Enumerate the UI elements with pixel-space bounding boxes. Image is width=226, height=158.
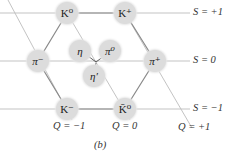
node-K-plus: K⁺ <box>114 2 136 24</box>
label-s-0: S = 0 <box>193 54 216 65</box>
node-pi-plus: π⁺ <box>144 50 166 72</box>
label-q-0: Q = 0 <box>112 120 137 131</box>
diagram-lines <box>0 0 226 158</box>
label-q-plus1: Q = +1 <box>178 121 210 132</box>
node-eta: η <box>69 40 91 62</box>
label-s-plus1: S = +1 <box>193 6 223 17</box>
node-K-minus: K⁻ <box>56 98 78 120</box>
caption: (b) <box>94 139 106 150</box>
node-pi-minus: π⁻ <box>27 50 49 72</box>
node-K0-bar: K̄⁰ <box>114 98 136 120</box>
node-eta-prime: η′ <box>83 65 105 87</box>
label-s-minus1: S = −1 <box>193 102 223 113</box>
node-pi0: π⁰ <box>99 40 121 62</box>
label-q-minus1: Q = −1 <box>53 120 85 131</box>
node-K0: K⁰ <box>56 2 78 24</box>
